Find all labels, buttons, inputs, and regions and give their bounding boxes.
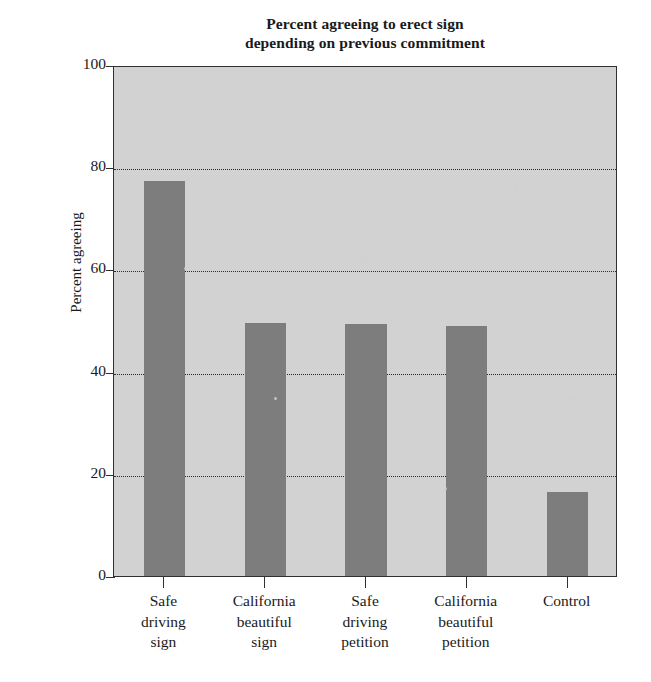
x-tick-label-line: California (415, 591, 516, 612)
y-tick-label: 80 (54, 157, 106, 175)
x-tick-label-line: driving (113, 612, 214, 633)
x-tick-label-line: beautiful (214, 612, 315, 633)
x-tick-label: Safedrivingsign (113, 591, 214, 653)
bar (446, 326, 487, 576)
y-tick-label: 60 (54, 259, 106, 277)
y-tick-label: 100 (54, 55, 106, 73)
x-tick-label-line: sign (214, 632, 315, 653)
y-tick-label: 0 (54, 566, 106, 584)
gridline-80 (114, 169, 616, 170)
x-tick-label: Californiabeautifulsign (214, 591, 315, 653)
x-tick-label-line: petition (415, 632, 516, 653)
x-tick-label: Californiabeautifulpetition (415, 591, 516, 653)
x-tick-label-line: Safe (113, 591, 214, 612)
x-tick-mark (365, 577, 366, 588)
paper-speck (364, 257, 367, 260)
paper-speck (514, 187, 517, 190)
bar (144, 181, 185, 576)
bar-chart-figure: Percent agreeing to erect sign depending… (0, 0, 651, 682)
x-tick-mark (466, 577, 467, 588)
x-axis-ticks (113, 577, 617, 591)
x-tick-label-line: Control (516, 591, 617, 612)
bar (547, 492, 588, 576)
bar (345, 324, 386, 576)
paper-speck (274, 397, 277, 400)
chart-title-line-2: depending on previous commitment (113, 33, 617, 52)
x-tick-label: Safedrivingpetition (315, 591, 416, 653)
x-tick-mark (163, 577, 164, 588)
x-tick-label-line: beautiful (415, 612, 516, 633)
x-tick-mark (567, 577, 568, 588)
y-tick-label: 40 (54, 362, 106, 380)
gridline-60 (114, 271, 616, 272)
bar (245, 323, 286, 576)
x-tick-label-line: California (214, 591, 315, 612)
chart-title: Percent agreeing to erect sign depending… (113, 14, 617, 52)
x-tick-mark (264, 577, 265, 588)
x-tick-label-line: driving (315, 612, 416, 633)
paper-speck (184, 267, 187, 270)
x-tick-label-line: petition (315, 632, 416, 653)
x-tick-label-line: Safe (315, 591, 416, 612)
x-tick-label: Control (516, 591, 617, 612)
paper-speck (444, 487, 447, 490)
y-tick-label: 20 (54, 464, 106, 482)
y-axis-ticks: 020406080100 (48, 66, 106, 577)
plot-area (113, 66, 617, 577)
x-tick-label-line: sign (113, 632, 214, 653)
paper-speck (569, 397, 572, 400)
chart-title-line-1: Percent agreeing to erect sign (113, 14, 617, 33)
x-axis-labels: SafedrivingsignCaliforniabeautifulsignSa… (113, 591, 617, 671)
